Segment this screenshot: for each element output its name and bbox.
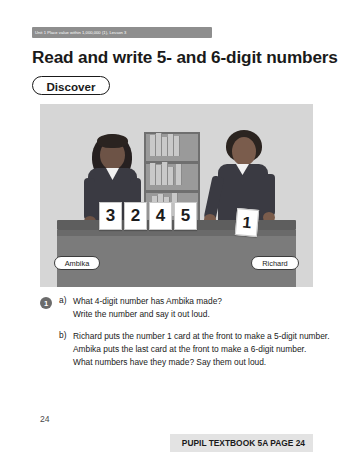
number-card: 2 [124, 202, 147, 230]
question-line: Write the number and say it out loud. [73, 308, 314, 321]
question-line: What 4-digit number has Ambika made? [73, 295, 314, 308]
number-card-single: 1 [235, 208, 259, 237]
page-title: Read and write 5- and 6-digit numbers [32, 47, 338, 68]
name-label-left: Ambika [54, 256, 100, 270]
footer-label: PUPIL TEXTBOOK 5A PAGE 24 [182, 438, 305, 448]
textbook-page: Unit 1 Place value within 1,000,000 (1),… [0, 0, 353, 463]
footer-bar: PUPIL TEXTBOOK 5A PAGE 24 [170, 434, 313, 452]
name-label-right: Richard [251, 256, 299, 270]
question-letter: a) [59, 295, 66, 305]
question-list: a) What 4-digit number has Ambika made? … [59, 295, 314, 378]
number-card: 5 [174, 202, 197, 230]
lesson-illustration: 3 2 4 5 1 Ambika Richard [40, 104, 313, 287]
question-line: What numbers have they made? Say them ou… [73, 356, 314, 369]
desk-edge-shadow [57, 230, 296, 236]
question-line: Ambika puts the last card at the front t… [73, 343, 314, 356]
question-number-badge: 1 [40, 297, 52, 309]
number-card: 3 [99, 202, 122, 230]
page-number: 24 [40, 414, 50, 424]
question-line: Richard puts the number 1 card at the fr… [73, 330, 314, 343]
discover-label: Discover [33, 80, 109, 93]
discover-badge: Discover [32, 76, 110, 95]
unit-header-strip: Unit 1 Place value within 1,000,000 (1),… [32, 27, 212, 38]
question-item-b: b) Richard puts the number 1 card at the… [59, 330, 314, 369]
number-card: 4 [149, 202, 172, 230]
question-letter: b) [59, 330, 66, 340]
unit-header-text: Unit 1 Place value within 1,000,000 (1),… [35, 28, 126, 37]
number-card-row: 3 2 4 5 [99, 202, 197, 230]
question-item-a: a) What 4-digit number has Ambika made? … [59, 295, 314, 321]
